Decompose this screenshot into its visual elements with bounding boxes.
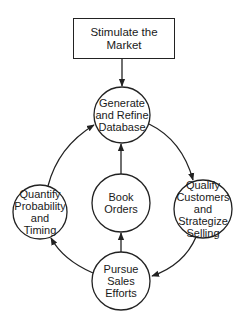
node-quantify-label: Quantify Probability and Timing — [10, 185, 70, 239]
node-line: Database — [95, 121, 148, 133]
node-line: Strategize — [176, 215, 229, 227]
arrow-database-to-qualify — [149, 124, 193, 180]
node-pursue-label: Pursue Sales Efforts — [92, 252, 150, 310]
arrow-qualify-to-pursue — [152, 237, 196, 276]
arrow-quantify-to-database — [48, 125, 94, 186]
node-line: and Refine — [95, 109, 148, 121]
node-line: Customers — [176, 191, 229, 203]
node-line: Selling — [176, 227, 229, 239]
node-line: Orders — [104, 203, 138, 215]
node-book-label: Book Orders — [92, 174, 150, 232]
node-line: Pursue — [104, 263, 139, 275]
node-qualify-label: Qualify Customers and Strategize Selling — [172, 180, 234, 238]
box-line-2: Market — [90, 39, 157, 52]
stimulate-market-box: Stimulate the Market — [73, 18, 175, 59]
node-line: Efforts — [104, 287, 139, 299]
node-line: and — [14, 212, 65, 224]
node-line: Sales — [104, 275, 139, 287]
node-line: and — [176, 203, 229, 215]
box-line-1: Stimulate the — [90, 26, 157, 39]
node-line: Probability — [14, 200, 65, 212]
arrow-pursue-to-quantify — [51, 238, 93, 273]
node-generate-label: Generate and Refine Database — [94, 87, 150, 143]
node-line: Quantify — [14, 188, 65, 200]
node-line: Generate — [95, 97, 148, 109]
node-line: Book — [104, 191, 138, 203]
node-line: Qualify — [176, 179, 229, 191]
node-line: Timing — [14, 224, 65, 236]
